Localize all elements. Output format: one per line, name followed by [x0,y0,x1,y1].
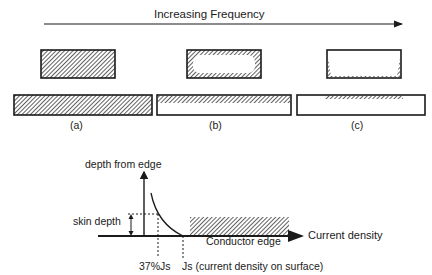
panel-a [14,50,152,115]
strip-b-surface [158,96,290,103]
panel-a-label: (a) [70,120,83,131]
panel-c [297,50,425,115]
cross-section-c [327,50,401,78]
conductor-block [190,217,289,236]
decay-curve [151,193,183,236]
cross-section-a [41,50,115,78]
y-axis-label: depth from edge [85,159,161,170]
cross-section-b-core [193,55,255,73]
panel-b-label: (b) [209,120,222,131]
tick-js-label: Js (current density on surface) [182,261,323,272]
conductor-edge-label: Conductor edge [206,236,281,247]
panel-b [157,50,291,115]
panel-c-label: (c) [351,120,363,131]
x-axis-label: Current density [308,230,383,241]
tick-37-label: 37%Js [139,261,171,272]
strip-c-surface [325,96,403,99]
frequency-label: Increasing Frequency [154,9,265,21]
skin-depth-label: skin depth [73,216,121,227]
strip-a [14,95,152,115]
